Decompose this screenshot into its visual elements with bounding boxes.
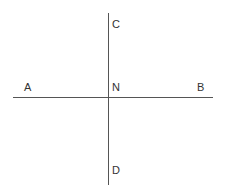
label-c: C [112,18,120,30]
label-d: D [112,164,120,176]
label-a: A [24,81,32,93]
label-n: N [112,81,120,93]
diagram-canvas: A N B C D [0,0,233,193]
label-b: B [197,81,204,93]
